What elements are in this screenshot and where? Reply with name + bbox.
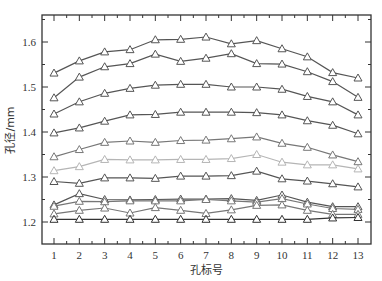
data-series bbox=[50, 151, 362, 174]
line-chart: 123456789101112131.21.31.41.51.6 孔标号 孔径/… bbox=[0, 0, 382, 281]
triangle-marker-icon bbox=[151, 204, 159, 211]
x-tick-label: 8 bbox=[229, 249, 235, 261]
triangle-marker-icon bbox=[50, 110, 58, 117]
triangle-marker-icon bbox=[75, 190, 83, 197]
data-series bbox=[50, 108, 362, 137]
triangle-marker-icon bbox=[50, 178, 58, 185]
y-tick-label: 1.4 bbox=[22, 126, 36, 138]
triangle-marker-icon bbox=[354, 111, 362, 118]
x-tick-label: 5 bbox=[153, 249, 159, 261]
x-tick-label: 2 bbox=[77, 249, 83, 261]
triangle-marker-icon bbox=[329, 69, 337, 76]
triangle-marker-icon bbox=[253, 133, 261, 140]
tick-layer: 123456789101112131.21.31.41.51.6 bbox=[22, 15, 371, 261]
data-series bbox=[50, 214, 362, 223]
y-tick-label: 1.6 bbox=[22, 36, 36, 48]
y-tick-label: 1.2 bbox=[22, 216, 36, 228]
x-tick-label: 11 bbox=[302, 249, 313, 261]
triangle-marker-icon bbox=[253, 151, 261, 158]
triangle-marker-icon bbox=[253, 167, 261, 174]
y-tick-label: 1.5 bbox=[22, 81, 36, 93]
x-tick-label: 6 bbox=[178, 249, 184, 261]
x-tick-label: 10 bbox=[277, 249, 289, 261]
triangle-marker-icon bbox=[151, 50, 159, 57]
data-series bbox=[50, 50, 362, 101]
x-tick-label: 12 bbox=[327, 249, 338, 261]
x-tick-label: 7 bbox=[203, 249, 209, 261]
data-series bbox=[50, 167, 362, 190]
triangle-marker-icon bbox=[227, 50, 235, 57]
triangle-marker-icon bbox=[253, 37, 261, 44]
x-tick-label: 1 bbox=[51, 249, 57, 261]
y-axis-title: 孔径/mm bbox=[4, 106, 17, 153]
x-tick-label: 9 bbox=[254, 249, 260, 261]
triangle-marker-icon bbox=[75, 73, 83, 80]
x-tick-label: 3 bbox=[102, 249, 108, 261]
x-axis-title: 孔标号 bbox=[190, 263, 223, 277]
triangle-marker-icon bbox=[50, 69, 58, 76]
x-tick-label: 4 bbox=[127, 249, 133, 261]
triangle-marker-icon bbox=[126, 137, 134, 144]
triangle-marker-icon bbox=[354, 93, 362, 100]
y-tick-label: 1.3 bbox=[22, 171, 36, 183]
x-tick-label: 13 bbox=[353, 249, 365, 261]
triangle-marker-icon bbox=[202, 33, 210, 40]
series-layer bbox=[50, 33, 362, 222]
